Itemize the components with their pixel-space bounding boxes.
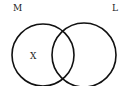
set-m-label: M: [13, 4, 22, 13]
element-x-label: X: [30, 52, 36, 61]
set-m-circle: [12, 24, 74, 86]
set-l-circle: [52, 23, 116, 86]
set-l-label: L: [112, 4, 118, 13]
